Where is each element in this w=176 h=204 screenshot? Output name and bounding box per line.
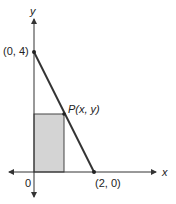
origin-label: 0 bbox=[25, 177, 31, 189]
diagram-canvas: y x 0 (0, 4) (2, 0) P(x, y) bbox=[0, 0, 176, 204]
point-x-intercept bbox=[92, 170, 96, 174]
y-axis-label: y bbox=[29, 5, 37, 17]
x-intercept-label: (2, 0) bbox=[95, 177, 121, 189]
x-axis-label: x bbox=[161, 166, 168, 178]
point-y-intercept bbox=[32, 50, 36, 54]
point-p-label: P(x, y) bbox=[68, 103, 100, 115]
inscribed-rectangle bbox=[34, 114, 64, 172]
y-intercept-label: (0, 4) bbox=[3, 45, 29, 57]
point-p bbox=[62, 112, 66, 116]
